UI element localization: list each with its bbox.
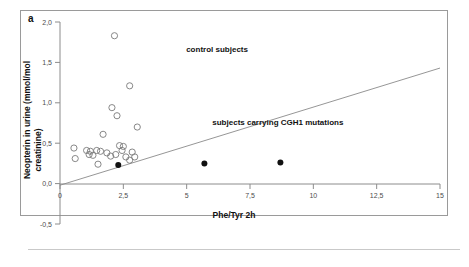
scatter-plot: 02,557,51012,515 -0,50,00,51,01,52,0 con… [0, 0, 469, 267]
x-axis-ticks: 02,557,51012,515 [58, 184, 444, 199]
data-point-open [111, 33, 117, 39]
annotation-1: control subjects [186, 45, 248, 54]
data-point-open [100, 131, 106, 137]
annotation-2: subjects carrying CGH1 mutations [212, 118, 344, 127]
data-point-open [127, 157, 133, 163]
x-tick-label: 0 [58, 192, 62, 199]
data-point-open [109, 105, 115, 111]
x-tick-label: 12,5 [370, 192, 384, 199]
y-tick-label: -0,5 [40, 221, 52, 228]
data-point-open [104, 150, 110, 156]
data-points [71, 33, 284, 168]
x-tick-label: 7,5 [245, 192, 255, 199]
data-point-open [71, 145, 77, 151]
data-point-open [72, 155, 78, 161]
data-point-filled [201, 160, 207, 166]
x-tick-label: 10 [309, 192, 317, 199]
y-tick-label: 0,5 [42, 140, 52, 147]
figure-panel: a 02,557,51012,515 -0,50,00,51,01,52,0 c… [0, 0, 469, 267]
y-tick-label: 1,5 [42, 59, 52, 66]
data-point-open [119, 147, 125, 153]
y-axis-title-line2: creatinine) [33, 128, 43, 171]
plot-annotations: control subjectssubjects carrying CGH1 m… [186, 45, 344, 128]
y-axis-ticks: -0,50,00,51,01,52,0 [40, 19, 60, 228]
data-point-open [97, 148, 103, 154]
data-point-open [123, 154, 129, 160]
x-tick-label: 15 [436, 192, 444, 199]
y-tick-label: 2,0 [42, 19, 52, 26]
series-1 [71, 33, 141, 168]
x-axis-title: Phe/Tyr 2h [213, 210, 256, 220]
data-point-filled [277, 160, 283, 166]
data-point-open [120, 143, 126, 149]
data-point-open [95, 161, 101, 167]
x-tick-label: 5 [185, 192, 189, 199]
y-axis-title-line1: Neopterin in urine (mmol/mol [22, 61, 32, 179]
data-point-open [127, 83, 133, 89]
data-point-open [134, 124, 140, 130]
data-point-filled [115, 162, 121, 168]
y-tick-label: 1,0 [42, 99, 52, 106]
y-tick-label: 0,0 [42, 180, 52, 187]
data-point-open [114, 113, 120, 119]
x-tick-label: 2,5 [118, 192, 128, 199]
